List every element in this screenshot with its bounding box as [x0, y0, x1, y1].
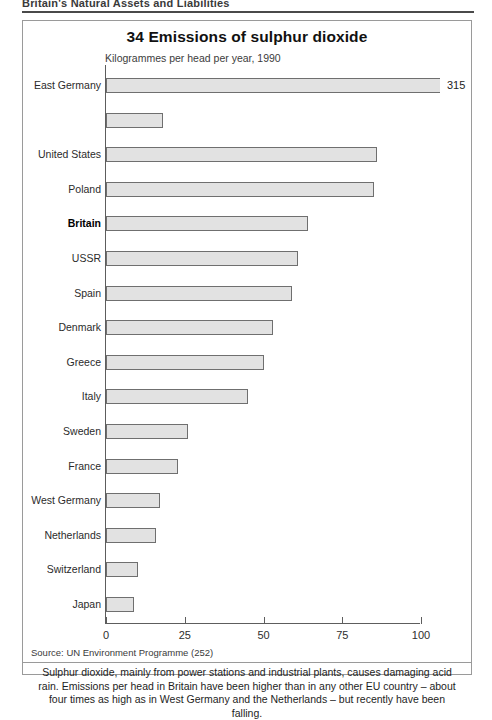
chart-row: Britain	[23, 207, 473, 240]
category-label: Japan	[0, 588, 101, 621]
chart-row: Switzerland	[23, 553, 473, 586]
chart-row: West Germany	[23, 484, 473, 517]
category-label: United States	[0, 138, 101, 171]
chart-row: France	[23, 450, 473, 483]
chart-row: Japan	[23, 588, 473, 621]
chart-row: USSR	[23, 242, 473, 275]
figure-panel: 34 Emissions of sulphur dioxide Kilogram…	[22, 20, 472, 675]
chart-row: Netherlands	[23, 519, 473, 552]
category-label: Britain	[0, 207, 101, 240]
chart-row: Denmark	[23, 311, 473, 344]
category-label: Greece	[0, 346, 101, 379]
plot-area: 0255075100East Germany315United StatesPo…	[23, 21, 473, 676]
category-label: France	[0, 450, 101, 483]
bar	[106, 597, 134, 612]
bar	[106, 528, 156, 543]
x-axis-tick-label: 75	[336, 629, 348, 641]
bar	[106, 459, 178, 474]
x-axis-tick-label: 50	[257, 629, 269, 641]
chart-row: Italy	[23, 380, 473, 413]
bar	[106, 320, 273, 335]
bar	[106, 493, 160, 508]
category-label: Netherlands	[0, 519, 101, 552]
x-axis-line	[105, 623, 420, 624]
category-label: Italy	[0, 380, 101, 413]
bar	[106, 286, 292, 301]
category-label: Spain	[0, 277, 101, 310]
category-label: West Germany	[0, 484, 101, 517]
bar	[106, 389, 248, 404]
bar-value-label: 315	[447, 78, 465, 93]
x-axis-tick-label: 0	[103, 629, 109, 641]
bar	[106, 113, 163, 128]
header-rule	[22, 11, 474, 13]
chart-row: United States	[23, 138, 473, 171]
chart-row: Spain	[23, 277, 473, 310]
category-label: East Germany	[0, 69, 101, 102]
bar	[106, 78, 440, 93]
bar	[106, 216, 308, 231]
chart-row: Sweden	[23, 415, 473, 448]
bar	[106, 562, 138, 577]
bar	[106, 424, 188, 439]
caption-rule	[23, 662, 471, 663]
figure-caption: Sulphur dioxide, mainly from power stati…	[33, 666, 461, 720]
x-axis-tick-label: 100	[412, 629, 430, 641]
bar	[106, 182, 374, 197]
source-note: Source: UN Environment Programme (252)	[31, 647, 213, 658]
bar	[106, 147, 377, 162]
category-label: Sweden	[0, 415, 101, 448]
chart-row: East Germany315	[23, 69, 473, 102]
category-label: USSR	[0, 242, 101, 275]
chart-row: Greece	[23, 346, 473, 379]
chart-row: Poland	[23, 173, 473, 206]
category-label: Denmark	[0, 311, 101, 344]
bar	[106, 251, 298, 266]
running-head: Britain's Natural Assets and Liabilities	[22, 0, 322, 9]
bar	[106, 355, 264, 370]
chart-row	[23, 104, 473, 137]
x-axis-tick-label: 25	[179, 629, 191, 641]
category-label: Switzerland	[0, 553, 101, 586]
category-label: Poland	[0, 173, 101, 206]
